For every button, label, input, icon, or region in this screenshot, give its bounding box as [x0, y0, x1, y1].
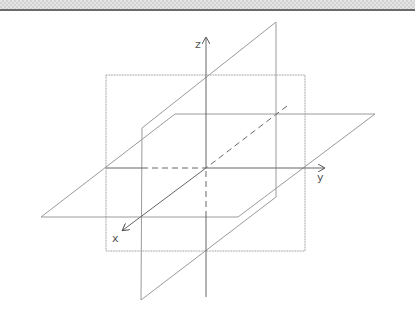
x-axis: x — [112, 106, 287, 245]
y-axis: y — [106, 168, 324, 184]
xy-plane — [41, 114, 375, 217]
planes-diagram: z y x — [0, 0, 415, 321]
z-axis-label: z — [195, 38, 201, 51]
x-axis-label: x — [112, 232, 119, 245]
slanted-plane — [141, 22, 276, 300]
y-axis-label: y — [317, 171, 324, 184]
